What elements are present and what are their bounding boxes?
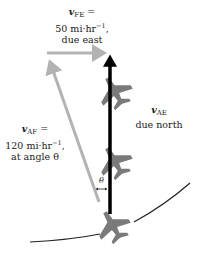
label-v-af: vAF = 120 mi·hr−1, at angle θ (0, 123, 70, 162)
label-v-ae: vAE due north (128, 104, 190, 130)
ground-arc (30, 234, 100, 242)
label-v-fe: vFE = 50 mi·hr−1, due east (42, 6, 122, 45)
plane-icon-bottom (90, 204, 135, 249)
theta-label: θ (99, 176, 104, 185)
ground-arc-right (134, 183, 190, 222)
